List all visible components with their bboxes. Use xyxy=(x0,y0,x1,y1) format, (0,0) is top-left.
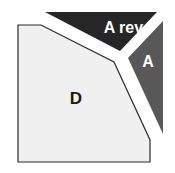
region-diagram: A rev. A D xyxy=(0,0,175,173)
diagram-canvas: A rev. A D xyxy=(0,0,175,173)
region-d xyxy=(18,25,150,162)
label-a: A xyxy=(142,53,154,70)
label-d: D xyxy=(70,89,82,108)
label-a-rev: A rev. xyxy=(104,19,147,36)
